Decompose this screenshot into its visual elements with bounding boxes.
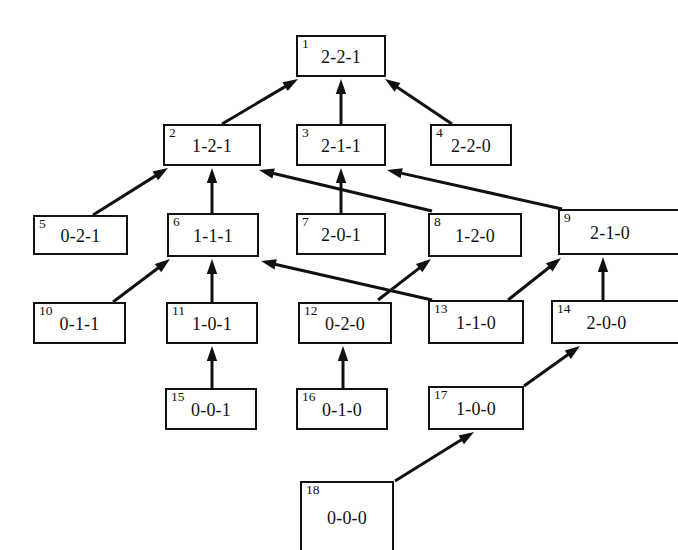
edge-5-to-2 [93, 168, 168, 215]
node-15[interactable]: 150-0-1 [165, 388, 257, 430]
node-2[interactable]: 21-2-1 [163, 124, 261, 166]
node-1[interactable]: 12-2-1 [296, 35, 386, 77]
node-13[interactable]: 131-1-0 [428, 300, 524, 344]
node-8[interactable]: 81-2-0 [428, 213, 522, 257]
arrowhead [416, 259, 431, 272]
edge-8-to-2 [259, 168, 432, 211]
node-id-label: 18 [306, 483, 320, 497]
edge-line [395, 86, 452, 124]
edge-line [273, 264, 432, 300]
node-7[interactable]: 72-0-1 [296, 213, 386, 255]
node-9[interactable]: 92-1-0 [558, 209, 678, 255]
edge-2-to-1 [222, 79, 298, 124]
edge-16-to-12 [338, 346, 348, 388]
node-state-label: 0-2-0 [300, 314, 390, 335]
edge-line [271, 173, 432, 211]
edge-line [113, 266, 160, 302]
arrowhead [387, 168, 403, 178]
node-4[interactable]: 42-2-0 [430, 124, 512, 166]
node-18[interactable]: 180-0-0 [300, 481, 394, 550]
edge-line [508, 265, 552, 300]
node-state-label: 1-0-1 [168, 314, 256, 335]
node-11[interactable]: 111-0-1 [166, 302, 258, 344]
edge-layer [0, 0, 678, 550]
node-state-label: 2-1-0 [560, 223, 660, 244]
node-3[interactable]: 32-1-1 [296, 124, 386, 166]
arrowhead [259, 168, 275, 178]
node-state-label: 1-1-0 [430, 313, 522, 334]
edge-line [399, 173, 562, 209]
node-state-label: 1-1-1 [169, 226, 257, 247]
edge-13-to-9 [508, 258, 561, 300]
arrowhead [565, 346, 580, 359]
edge-line [378, 266, 422, 300]
arrowhead [546, 258, 561, 271]
edge-11-to-6 [207, 259, 217, 302]
edge-10-to-6 [113, 259, 170, 302]
node-state-label: 2-2-1 [298, 47, 384, 68]
arrowhead [155, 259, 170, 272]
edge-line [222, 85, 288, 124]
node-state-label: 2-2-0 [432, 136, 510, 157]
node-10[interactable]: 100-1-1 [33, 302, 126, 344]
diagram-canvas: 12-2-121-2-132-1-142-2-050-2-161-1-172-0… [0, 0, 678, 550]
edge-line [395, 438, 464, 481]
node-state-label: 1-0-0 [430, 399, 522, 420]
node-state-label: 0-1-0 [298, 400, 386, 421]
arrowhead [207, 168, 217, 183]
arrowhead [207, 346, 217, 361]
node-14[interactable]: 142-0-0 [551, 300, 678, 344]
arrowhead [336, 79, 346, 94]
edge-15-to-11 [207, 346, 217, 388]
node-state-label: 0-2-1 [35, 226, 126, 247]
edge-12-to-8 [378, 259, 431, 300]
edge-18-to-17 [395, 432, 474, 481]
arrowhead [598, 257, 608, 272]
edge-line [93, 174, 158, 215]
arrowhead [459, 432, 474, 444]
node-12[interactable]: 120-2-0 [298, 302, 392, 344]
edge-7-to-3 [336, 168, 346, 213]
arrowhead [336, 168, 346, 183]
node-6[interactable]: 61-1-1 [167, 213, 259, 257]
arrowhead [261, 259, 277, 269]
arrowhead [385, 79, 400, 92]
edge-17-to-14 [524, 346, 580, 386]
edge-6-to-2 [207, 168, 217, 213]
node-state-label: 1-2-1 [165, 136, 259, 157]
node-state-label: 2-0-1 [298, 225, 384, 246]
edge-3-to-1 [336, 79, 346, 124]
node-16[interactable]: 160-1-0 [296, 388, 388, 430]
edge-13-to-6 [261, 259, 432, 300]
edge-line [524, 353, 570, 386]
node-17[interactable]: 171-0-0 [428, 386, 524, 430]
arrowhead [153, 168, 168, 180]
edge-14-to-9 [598, 257, 608, 300]
node-state-label: 0-0-1 [167, 400, 255, 421]
edge-9-to-3 [387, 168, 562, 209]
node-state-label: 2-0-0 [553, 313, 660, 334]
edge-4-to-1 [385, 79, 452, 124]
node-state-label: 2-1-1 [298, 136, 384, 157]
arrowhead [338, 346, 348, 361]
node-5[interactable]: 50-2-1 [33, 215, 128, 255]
node-state-label: 1-2-0 [430, 226, 520, 247]
node-state-label: 0-0-0 [302, 508, 392, 529]
node-state-label: 0-1-1 [35, 314, 124, 335]
arrowhead [282, 79, 298, 91]
arrowhead [207, 259, 217, 274]
